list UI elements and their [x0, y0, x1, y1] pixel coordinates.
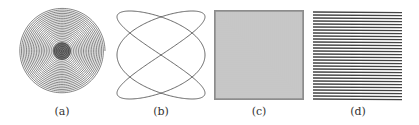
caption-a: (a)	[42, 105, 82, 118]
panel-b-lissajous	[117, 11, 205, 99]
caption-d: (d)	[338, 105, 378, 118]
caption-b: (b)	[141, 105, 181, 118]
panel-d-lines	[313, 12, 402, 100]
caption-c: (c)	[239, 105, 279, 118]
panel-a-spiral	[20, 8, 105, 92]
panel-c-lattice	[215, 11, 303, 99]
